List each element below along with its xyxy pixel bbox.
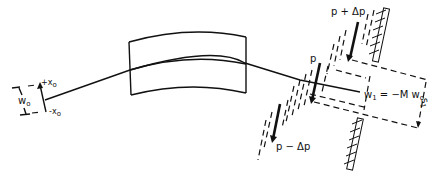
rays-p — [286, 63, 328, 122]
label-minus-x0: -xo — [49, 107, 61, 118]
ray-p-plus-main — [350, 22, 358, 58]
beam-diagram: +xo -xo wo — [0, 0, 442, 178]
image-box-inner-bottom — [310, 94, 368, 108]
slit-lower-jaw — [344, 118, 363, 170]
label-plus-x0: +xo — [41, 78, 57, 89]
w0-tick-top — [12, 87, 20, 88]
magnet-top-edge — [129, 32, 246, 42]
ray-p-minus-dash-3 — [258, 120, 266, 160]
ray-p-minus-dash-1 — [282, 100, 288, 128]
w0-arrow-top — [19, 88, 22, 95]
label-p: p — [310, 53, 316, 64]
upper-jaw-hatching — [369, 10, 386, 54]
label-p-minus-dp: p − Δp — [276, 141, 310, 152]
label-p-plus-dp: p + Δp — [331, 6, 365, 17]
magnet-left-edge — [129, 42, 131, 95]
upper-jaw-outline — [372, 8, 389, 62]
label-w1: w1 = −M wo — [364, 89, 424, 102]
ray-p-dash-4 — [292, 80, 300, 116]
ray-p-dash-1 — [322, 66, 328, 92]
w0-arrow-bottom — [24, 108, 26, 114]
magnet-element — [129, 32, 246, 95]
label-w0: wo — [18, 95, 30, 108]
image-box-top — [352, 60, 428, 80]
ray-p-plus-dash-5 — [327, 44, 334, 74]
w0-tick-bottom — [20, 114, 30, 115]
lower-jaw-hatching — [344, 120, 362, 164]
slit-upper-jaw — [369, 8, 390, 62]
ray-p-minus-dash-2 — [264, 112, 272, 148]
image-box-inner-top — [336, 70, 366, 78]
s1-arrowhead — [416, 121, 421, 128]
label-s1: s1 — [417, 97, 431, 109]
minus-x0-guide — [32, 112, 42, 113]
magnet-bottom-edge — [131, 87, 246, 95]
object-line — [40, 85, 46, 112]
ray-p-plus-dash-3 — [340, 30, 346, 60]
plus-x0-guide — [28, 85, 36, 86]
ray-p-plus-dash-1 — [362, 14, 368, 44]
ray-p-plus-dash-4 — [334, 36, 340, 66]
image-box-bottom — [314, 102, 418, 128]
ray-p-minus-main — [273, 104, 280, 139]
